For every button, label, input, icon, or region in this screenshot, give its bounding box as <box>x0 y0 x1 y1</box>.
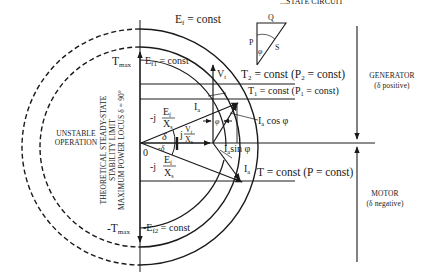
motor-label: MOTOR <box>371 189 398 198</box>
triangle-s-label: S <box>275 43 279 52</box>
svg-text:Vt: Vt <box>185 125 193 135</box>
origin-label: 0 <box>143 147 148 158</box>
generator-sublabel: (δ positive) <box>374 81 410 90</box>
svg-text:Xs: Xs <box>164 167 174 179</box>
unstable-line2: OPERATION <box>55 138 98 147</box>
ef1-const-label: Ef1 = const <box>145 55 189 68</box>
header-fragment: ...STATE CIRCUIT <box>280 0 343 6</box>
delta-arc <box>173 130 175 143</box>
power-triangle: Q P S φ <box>249 13 286 65</box>
t-label: T = const (P = const) <box>257 166 354 179</box>
j-ef-xs-top-label: -j Ef Xs <box>150 106 175 130</box>
svg-text:Ef: Ef <box>164 154 172 166</box>
triangle-q-label: Q <box>268 13 274 22</box>
ia-sin-label: Iasin φ <box>224 143 250 155</box>
t2-label: T2 = const (P2 = const) <box>241 68 345 82</box>
svg-text:j: j <box>179 129 183 140</box>
generator-label: GENERATOR <box>369 71 414 80</box>
stability-limit-label: THEORETICAL STEADY-STATE STABILITY LIMIT… <box>99 90 126 210</box>
svg-text:MAXIMUM POWER LOCUS δ = 90°: MAXIMUM POWER LOCUS δ = 90° <box>117 90 126 210</box>
svg-text:-j: -j <box>150 161 156 172</box>
ia-top-label: Ia <box>194 101 200 113</box>
vt-label: Vt <box>217 68 226 80</box>
triangle-p-label: P <box>249 38 254 47</box>
svg-text:STABILITY LIMIT: STABILITY LIMIT <box>108 119 117 181</box>
svg-text:Ef: Ef <box>163 106 171 118</box>
ia-cos-label: Ia cos φ <box>258 115 289 127</box>
triangle-phi-label: φ <box>258 47 263 56</box>
ef-const-label: Ef = const <box>175 13 222 27</box>
ia-top-leader <box>208 93 226 96</box>
delta-label: δ <box>162 131 167 142</box>
j-vt-xs-label: j Vt Xs <box>179 125 195 145</box>
svg-text:Xs: Xs <box>163 118 173 130</box>
t1-label: T1 = const (P1 = const) <box>248 85 339 97</box>
neg-delta-label: -δ <box>158 144 165 153</box>
motor-sublabel: (δ negative) <box>366 199 403 208</box>
phasor-diagram: ...STATE CIRCUIT Q P S φ <box>0 0 422 279</box>
neg-tmax-label: -Tmax <box>107 222 130 236</box>
svg-text:Xs: Xs <box>185 135 193 145</box>
neg-delta-arc <box>172 143 175 155</box>
tmax-label: Tmax <box>112 55 132 69</box>
ia-bottom-label: Ia <box>244 163 250 175</box>
svg-text:-j: -j <box>150 112 156 123</box>
ef2-const-label: -Ef2 = const <box>143 222 190 235</box>
phi-label: φ <box>215 117 220 126</box>
svg-text:THEORETICAL STEADY-STATE: THEORETICAL STEADY-STATE <box>99 95 108 204</box>
j-ef-xs-bottom-label: -j Ef Xs <box>150 154 176 179</box>
unstable-line1: UNSTABLE <box>56 129 96 138</box>
